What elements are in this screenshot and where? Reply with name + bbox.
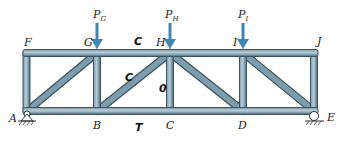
load-arrow-PG [91,23,103,49]
arrow-down-icon [164,39,176,49]
node-label-J: J [315,35,322,48]
node-label-F: F [23,36,32,49]
member-force-label-BC: T [135,121,144,134]
member-CH [167,50,174,114]
load-label-PG: PG [92,8,106,23]
load-arrow-PH [164,23,176,49]
member-AG-fill [27,53,97,111]
member-force-label-BH: C [125,71,133,84]
member-force-label-GH: C [134,35,142,48]
node-label-A: A [8,112,17,125]
load-label-PI: PI [237,8,248,23]
member-force-label-CH: 0 [159,82,167,95]
member-DI [240,50,247,114]
node-label-E: E [326,111,335,124]
load-arrow-PI [237,23,249,49]
node-label-B: B [92,119,101,132]
top-chord [23,50,318,57]
node-label-I: I [232,36,238,49]
load-label-PH: PH [164,8,179,23]
node-label-D: D [237,119,247,132]
member-EJ [311,50,318,114]
node-label-C: C [166,119,175,132]
node-label-H: H [155,36,166,49]
member-HD-fill [170,53,243,111]
arrow-down-icon [237,39,249,49]
member-IE-fill [243,53,314,111]
member-AF [23,50,30,114]
node-label-G: G [84,36,93,49]
truss-diagram: PG PH PI F G H I J A B C D E C C 0 T [0,0,343,141]
member-BG [94,50,101,114]
arrow-down-icon [91,39,103,49]
bottom-chord [23,108,318,115]
